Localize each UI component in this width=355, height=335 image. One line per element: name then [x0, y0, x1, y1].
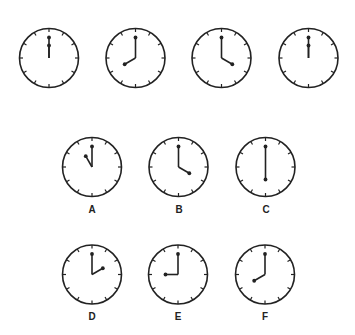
option-clock-f[interactable]	[236, 245, 295, 304]
clock-canvas	[0, 0, 355, 335]
option-label-c: C	[252, 203, 279, 215]
option-clock-b[interactable]	[149, 138, 208, 197]
option-label-e: E	[165, 310, 192, 322]
option-label-a: A	[79, 203, 106, 215]
hour-hand-tip	[123, 62, 127, 66]
minute-hand-tip	[263, 252, 267, 256]
minute-hand-tip	[134, 36, 138, 40]
hour-hand-tip	[47, 44, 51, 48]
sequence-clock-3	[192, 29, 251, 88]
sequence-clock-4	[279, 29, 338, 88]
minute-hand-tip	[90, 252, 94, 256]
option-clock-d[interactable]	[63, 245, 122, 304]
minute-hand-tip	[177, 145, 181, 149]
sequence-clock-2	[106, 29, 165, 88]
sequence-clock-1	[20, 29, 79, 88]
option-label-b: B	[165, 203, 192, 215]
minute-hand-tip	[176, 252, 180, 256]
option-clock-a[interactable]	[63, 138, 122, 197]
minute-hand-tip	[90, 145, 94, 149]
option-clock-e[interactable]	[149, 245, 208, 304]
clock-sequence-puzzle: A B C D E F	[0, 0, 355, 335]
option-clock-c[interactable]	[236, 138, 295, 197]
hour-hand-tip	[252, 279, 256, 283]
hour-hand-tip	[230, 62, 234, 66]
hour-hand-tip	[84, 154, 88, 158]
hour-hand-tip	[264, 178, 268, 182]
minute-hand-tip	[264, 145, 268, 149]
hour-hand-tip	[307, 44, 311, 48]
minute-hand-tip	[47, 36, 51, 40]
option-label-d: D	[79, 310, 106, 322]
option-label-f: F	[252, 310, 279, 322]
hour-hand-tip	[101, 266, 105, 270]
hour-hand-tip	[164, 273, 168, 277]
minute-hand-tip	[307, 36, 311, 40]
hour-hand-tip	[187, 171, 191, 175]
minute-hand-tip	[220, 36, 224, 40]
